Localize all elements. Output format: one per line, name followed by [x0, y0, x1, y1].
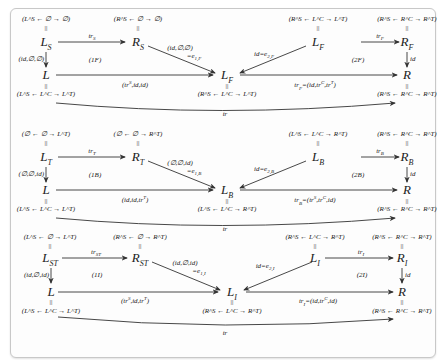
- label-diag-left-a: (∅,∅,id): [167, 160, 193, 167]
- label-diag-right: id=e2,B: [254, 166, 274, 174]
- label-bottom-right: trF=(id,trC,trT): [294, 80, 336, 91]
- cell-label-2B: (2B): [352, 172, 364, 179]
- label-left-down: (id,∅,∅): [18, 56, 44, 63]
- node-R: R: [403, 68, 411, 81]
- tuple-LB-top: (L^S ← L^C → R^T): [289, 131, 348, 138]
- tuple-RST: (R^S ← ∅ → R^T): [113, 234, 167, 241]
- node-RT: RT: [132, 150, 144, 167]
- label-bottom-left: (trS,id,id): [122, 80, 148, 89]
- equals-sign: ||: [45, 25, 48, 32]
- tuple-R: (R^S ← R^C → R^T): [377, 206, 436, 213]
- node-LS: LS: [40, 35, 51, 52]
- equals-sign: ||: [139, 243, 142, 250]
- tuple-LT: (∅ ← ∅ → L^T): [22, 131, 70, 138]
- label-diag-left-a: (id,∅,id): [172, 260, 197, 267]
- label-left-down: (id,∅,id): [24, 272, 49, 279]
- tuple-RT: (∅ ← ∅ → R^T): [114, 131, 163, 138]
- equals-sign: ||: [226, 83, 229, 90]
- node-LT: LT: [40, 150, 52, 167]
- equals-sign: ||: [317, 25, 320, 32]
- equals-sign: ||: [314, 243, 317, 250]
- tuple-LST: (L^S ← ∅ → L^T): [24, 234, 77, 241]
- label-trT: trT: [88, 148, 95, 156]
- tuple-L: (L^S ← L^C → L^T): [17, 206, 75, 213]
- label-curve-tr: tr: [223, 330, 228, 337]
- equals-sign: ||: [231, 299, 234, 306]
- tuple-LS: (L^S ← ∅ → ∅): [22, 16, 70, 23]
- label-diag-right: id=e2,F: [254, 51, 274, 59]
- cell-label-2F: (2F): [352, 57, 364, 64]
- tuple-RF: (R^S ← R^C → R^T): [377, 16, 436, 23]
- label-diag-left-a: (id,∅,∅): [167, 45, 193, 52]
- label-trF: trF: [376, 33, 384, 41]
- node-LF-top: LF: [312, 35, 324, 52]
- label-diag-right: id=e2,I: [256, 263, 275, 271]
- cell-label-1I: (1I): [92, 272, 103, 279]
- label-bottom-left: (id,id,trT): [122, 195, 149, 204]
- tuple-L: (L^S ← L^C → L^T): [22, 308, 80, 315]
- equals-sign: ||: [137, 25, 140, 32]
- node-R: R: [403, 183, 411, 196]
- label-right-down: id: [410, 56, 415, 63]
- tuple-LF: (R^S ← L^C → L^T): [198, 91, 257, 98]
- tuple-R: (R^S ← R^C → R^T): [372, 308, 431, 315]
- node-LB-top: LB: [312, 150, 324, 167]
- tuple-LI-top: (R^S ← L^C → R^T): [285, 234, 344, 241]
- tuple-LI: (R^S ← L^C → R^T): [202, 308, 261, 315]
- node-RST: RST: [132, 251, 148, 268]
- node-RS: RS: [132, 35, 144, 52]
- label-trB: trB: [376, 148, 384, 156]
- node-LI-top: LI: [310, 251, 320, 268]
- equals-sign: ||: [45, 198, 48, 205]
- cell-label-2I: (2I): [357, 272, 368, 279]
- diagram-arrows: [0, 0, 439, 360]
- tuple-L: (L^S ← L^C → L^T): [17, 91, 75, 98]
- label-bottom-right: trI=(id,trC,id): [299, 296, 337, 307]
- label-trS: trS: [88, 33, 95, 41]
- cell-label-1B: (1B): [89, 172, 101, 179]
- node-RI: RI: [397, 251, 408, 268]
- node-L: L: [42, 68, 49, 81]
- label-curve-tr: tr: [223, 226, 228, 233]
- equals-sign: ||: [49, 243, 52, 250]
- label-diag-left-b: =e1,I: [192, 268, 205, 276]
- equals-sign: ||: [137, 140, 140, 147]
- tuple-R: (R^S ← R^C → R^T): [377, 91, 436, 98]
- tuple-RB: (R^S ← R^C → R^T): [377, 131, 436, 138]
- node-L: L: [47, 285, 54, 298]
- node-R: R: [398, 285, 406, 298]
- label-right-down: id: [405, 272, 410, 279]
- label-diag-left-b: =e1,B: [187, 168, 202, 176]
- equals-sign: ||: [401, 299, 404, 306]
- equals-sign: ||: [406, 198, 409, 205]
- node-RF: RF: [401, 35, 414, 52]
- equals-sign: ||: [317, 140, 320, 147]
- label-right-down: id: [410, 171, 415, 178]
- label-left-down: (∅,∅,id): [18, 171, 44, 178]
- tuple-RI: (R^S ← R^C → R^T): [372, 234, 431, 241]
- node-LST: LST: [42, 251, 58, 268]
- cell-label-1F: (1F): [89, 57, 101, 64]
- equals-sign: ||: [45, 83, 48, 90]
- tuple-LB: (L^S ← L^C → R^T): [198, 206, 257, 213]
- equals-sign: ||: [50, 299, 53, 306]
- equals-sign: ||: [45, 140, 48, 147]
- equals-sign: ||: [226, 198, 229, 205]
- equals-sign: ||: [406, 25, 409, 32]
- label-trST: trST: [91, 249, 101, 257]
- equals-sign: ||: [406, 140, 409, 147]
- label-diag-left-b: =e1,F: [187, 53, 202, 61]
- node-L: L: [42, 183, 49, 196]
- label-trI: trI: [358, 249, 364, 257]
- label-curve-tr: tr: [223, 111, 228, 118]
- tuple-LF-top: (R^S ← L^C → L^T): [289, 16, 348, 23]
- label-bottom-left: (trS,id,trT): [121, 296, 149, 305]
- equals-sign: ||: [401, 243, 404, 250]
- label-bottom-right: trB=(trS,trC,id): [294, 195, 335, 206]
- tuple-RS: (R^S ← ∅ → ∅): [114, 16, 162, 23]
- equals-sign: ||: [406, 83, 409, 90]
- node-RB: RB: [401, 150, 414, 167]
